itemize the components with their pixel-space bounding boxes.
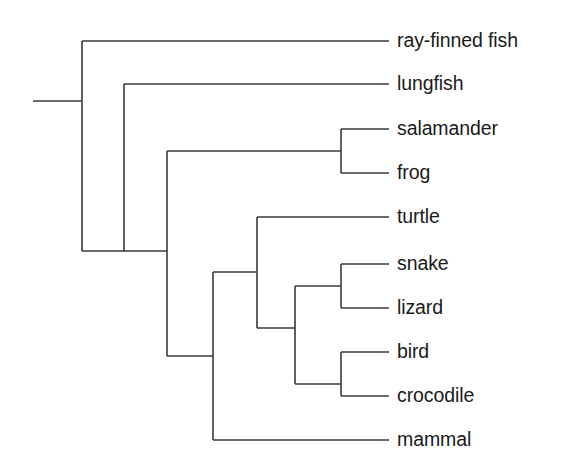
tip-label-layer: ray-finned fishlungfishsalamanderfrogtur… xyxy=(0,0,586,474)
tip-label-lizard: lizard xyxy=(397,298,443,318)
phylogenetic-tree-figure: ray-finned fishlungfishsalamanderfrogtur… xyxy=(0,0,586,474)
tip-label-frog: frog xyxy=(397,163,430,183)
tip-label-salamander: salamander xyxy=(397,119,498,139)
tip-label-mammal: mammal xyxy=(397,430,471,450)
tip-label-crocodile: crocodile xyxy=(397,386,474,406)
tip-label-lungfish: lungfish xyxy=(397,74,463,94)
tip-label-turtle: turtle xyxy=(397,207,440,227)
tip-label-bird: bird xyxy=(397,342,429,362)
tip-label-snake: snake xyxy=(397,254,449,274)
tip-label-ray-finned-fish: ray-finned fish xyxy=(397,31,518,51)
